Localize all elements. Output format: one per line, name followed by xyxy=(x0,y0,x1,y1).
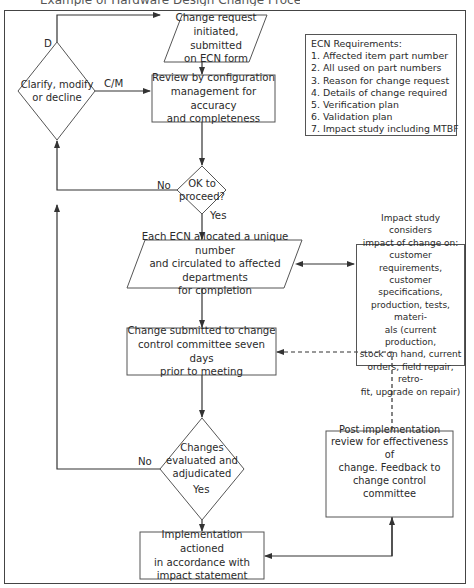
post-review-node: Post implementation review for effective… xyxy=(326,431,453,493)
allocate-node: Each ECN allocated a unique number and c… xyxy=(132,240,298,288)
clarify-modify-label: C/M xyxy=(104,78,123,90)
eval-yes-label: Yes xyxy=(193,484,209,496)
ecn-requirement-item: 3. Reason for change request xyxy=(311,75,451,87)
ecn-requirement-item: 1. Affected item part number xyxy=(311,50,451,62)
evaluated-decision: Changes evaluated and adjudicated xyxy=(160,438,244,482)
ok-yes-label: Yes xyxy=(210,210,226,222)
ecn-requirements-box: ECN Requirements: 1. Affected item part … xyxy=(305,34,457,136)
clarify-decision: Clarify, modify or decline xyxy=(18,75,96,107)
ecn-requirement-item: 2. All used on part numbers xyxy=(311,62,451,74)
ok-to-proceed-decision: OK to proceed? xyxy=(177,176,227,204)
impact-study-note: Impact study considers impact of change … xyxy=(356,244,465,366)
ecn-requirements-heading: ECN Requirements: xyxy=(311,38,451,50)
submitted-node: Change submitted to change control commi… xyxy=(127,328,276,375)
ecn-requirement-item: 6. Validation plan xyxy=(311,111,451,123)
decline-label: D xyxy=(44,38,52,50)
change-request-node: Change request initiated, submitted on E… xyxy=(168,15,264,62)
ok-no-label: No xyxy=(157,180,171,192)
implementation-node: Implementation actioned in accordance wi… xyxy=(140,532,264,579)
eval-no-label: No xyxy=(138,456,152,468)
ecn-requirement-item: 7. Impact study including MTBF xyxy=(311,123,451,135)
review-node: Review by configuration management for a… xyxy=(152,75,275,122)
ecn-requirement-item: 5. Verification plan xyxy=(311,99,451,111)
ecn-requirement-item: 4. Details of change required xyxy=(311,87,451,99)
